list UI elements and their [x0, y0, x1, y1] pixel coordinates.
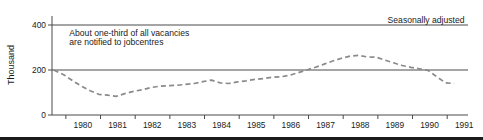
line-chart: 0200400 19801981198219831984198519861987… [0, 0, 483, 140]
x-tick-label-1991: 1991 [455, 120, 474, 130]
x-tick-label-1988: 1988 [351, 120, 370, 130]
x-tick-label-1985: 1985 [247, 120, 266, 130]
x-tick-label-1989: 1989 [386, 120, 405, 130]
x-tick-label-1982: 1982 [143, 120, 162, 130]
x-tick-label-1990: 1990 [420, 120, 439, 130]
x-tick-label-1984: 1984 [212, 120, 231, 130]
x-tick-label-1986: 1986 [282, 120, 301, 130]
x-tick-label-1980: 1980 [74, 120, 93, 130]
y-tick-label-200: 200 [32, 65, 46, 75]
x-tick-label-1987: 1987 [316, 120, 335, 130]
y-tick-label-400: 400 [32, 20, 46, 30]
annotation-line-2: are notified to jobcentres [69, 37, 163, 47]
y-tick-label-0: 0 [41, 110, 46, 120]
x-tick-label-1983: 1983 [178, 120, 197, 130]
chart-figure: 0200400 19801981198219831984198519861987… [0, 0, 483, 140]
bottom-divider [0, 137, 483, 140]
y-axis-title: Thousand [6, 45, 16, 85]
seasonally-adjusted-note: Seasonally adjusted [388, 15, 465, 25]
x-tick-label-1981: 1981 [108, 120, 127, 130]
